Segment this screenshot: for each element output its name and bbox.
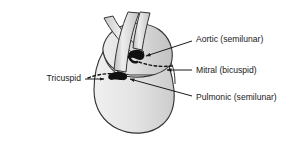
heart-valves-diagram: Aortic (semilunar) Mitral (bicuspid) Pul… [0,0,300,143]
label-pulmonic: Pulmonic (semilunar) [196,92,277,102]
label-mitral: Mitral (bicuspid) [196,65,257,75]
label-tricuspid: Tricuspid [46,73,81,83]
diagram-canvas: Aortic (semilunar) Mitral (bicuspid) Pul… [0,0,300,143]
label-aortic: Aortic (semilunar) [196,34,263,44]
